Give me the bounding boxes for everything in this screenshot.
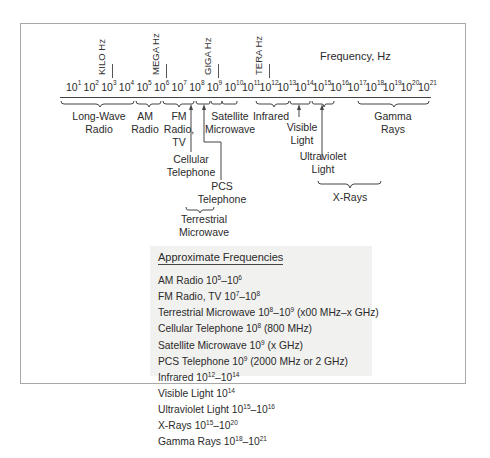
brace-infrared (256, 101, 289, 107)
band-gamma-rays: GammaRays (373, 110, 413, 136)
legend-item: Satellite Microwave 109 (x GHz) (158, 337, 379, 353)
band-fm-radio-tv: FMRadio,TV (161, 110, 197, 149)
legend-item: X-Rays 1015–1020 (158, 417, 379, 433)
brace-gamma (358, 101, 429, 107)
visible-arrowhead (297, 104, 301, 110)
band-cellular-telephone: CellularTelephone (162, 153, 220, 179)
brace-xrays (318, 181, 381, 188)
brace-long-wave (61, 101, 134, 107)
legend-item: FM Radio, TV 107–108 (158, 288, 379, 304)
brace-am (136, 101, 161, 107)
band-ultraviolet-light: UltravioletLight (296, 150, 350, 176)
brace-visible (290, 101, 310, 104)
band-x-rays: X-Rays (330, 191, 370, 204)
brace-satellite (222, 101, 237, 104)
band-terrestrial-microwave: TerrestrialMicrowave (176, 213, 232, 239)
legend-item: Infrared 1012–1014 (158, 369, 379, 385)
legend-item: Cellular Telephone 108 (800 MHz) (158, 320, 379, 336)
legend-box: Approximate Frequencies AM Radio 105–106… (150, 246, 372, 376)
band-pcs-telephone: PCSTelephone (196, 180, 248, 206)
legend-item: Visible Light 1014 (158, 385, 379, 401)
band-long-wave-radio: Long-WaveRadio (66, 110, 132, 136)
legend-item: AM Radio 105–106 (158, 272, 379, 288)
brace-ultraviolet (312, 101, 334, 107)
brace-fm (163, 101, 194, 107)
band-satellite-microwave: SatelliteMicrowave (205, 110, 255, 136)
legend-item: Gamma Rays 1018–1021 (158, 433, 379, 449)
legend-item: PCS Telephone 109 (2000 MHz or 2 GHz) (158, 353, 379, 369)
legend-item: Terrestrial Microwave 108–109 (x00 MHz–x… (158, 304, 379, 320)
band-am-radio: AMRadio (128, 110, 162, 136)
legend-title: Approximate Frequencies (158, 251, 283, 265)
legend-list: AM Radio 105–106FM Radio, TV 107–108Terr… (158, 272, 379, 449)
band-visible-light: VisibleLight (284, 121, 320, 147)
legend-item: Ultraviolet Light 1015–1016 (158, 401, 379, 417)
